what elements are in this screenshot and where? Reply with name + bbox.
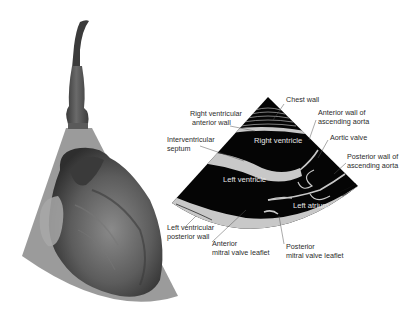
left-illustration: [22, 20, 178, 302]
label-pmvl-line2: mitral valve leaflet: [286, 252, 344, 261]
echocardiography-diagram: Chest wall Right ventricular anterior wa…: [0, 0, 416, 331]
label-right-ventricle: Right ventricle: [254, 137, 302, 146]
label-chest-wall: Chest wall: [286, 96, 319, 105]
label-aorta-anterior-line2: ascending aorta: [318, 118, 369, 127]
label-ivs-line2: septum: [167, 145, 191, 154]
label-lv-posterior-wall-line2: posterior wall: [167, 233, 209, 242]
label-aortic-valve: Aortic valve: [330, 134, 367, 143]
ultrasound-probe: [66, 20, 89, 129]
label-amvl-line2: mitral valve leaflet: [212, 249, 270, 258]
label-left-ventricle: Left ventricle: [223, 176, 266, 185]
label-left-atrium: Left atrium: [293, 202, 329, 211]
label-rv-anterior-wall-line2: anterior wall: [192, 119, 231, 128]
label-aorta-posterior-line2: ascending aorta: [347, 162, 398, 171]
